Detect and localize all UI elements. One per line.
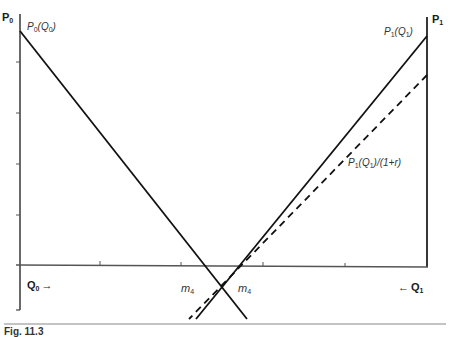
p1-label-main: P xyxy=(384,26,391,37)
right-axis-label-sub: 1 xyxy=(439,19,443,26)
right-axis-label: P1 xyxy=(432,14,443,26)
m4-left-main: m xyxy=(181,282,190,294)
q1-label-main: Q xyxy=(411,281,420,293)
q1-axis-label: ←Q1 xyxy=(398,282,423,294)
p1d-label-close: )/(1+r) xyxy=(374,157,402,168)
q0-label-sub: 0 xyxy=(36,285,40,292)
m4-right-main: m xyxy=(238,282,247,294)
p1-discounted-curve xyxy=(189,75,427,319)
p0-curve xyxy=(20,31,247,319)
p1d-label-arg: (Q xyxy=(359,157,370,168)
p1-curve-label: P1(Q1) xyxy=(384,27,413,38)
horizontal-axis xyxy=(16,265,428,267)
m4-left-sub: 4 xyxy=(190,288,194,295)
p0-label-main: P xyxy=(27,21,34,32)
p0-label-close: ) xyxy=(53,21,56,32)
p1-discounted-curve-label: P1(Q1)/(1+r) xyxy=(348,158,401,169)
left-arrow-icon: ← xyxy=(398,281,409,293)
m4-marker-right: m4 xyxy=(238,283,251,295)
p1d-label-main: P xyxy=(348,157,355,168)
m4-marker-left: m4 xyxy=(181,283,194,295)
left-axis-label: P0 xyxy=(2,12,13,24)
p1-label-arg: (Q xyxy=(395,26,406,37)
left-axis-label-sub: 0 xyxy=(9,17,13,24)
m4-right-sub: 4 xyxy=(247,288,251,295)
q0-label-main: Q xyxy=(27,279,36,291)
p0-label-arg: (Q xyxy=(38,21,49,32)
figure-caption: Fig. 11.3 xyxy=(4,326,43,337)
q1-label-sub: 1 xyxy=(420,287,424,294)
p0-curve-label: P0(Q0) xyxy=(27,22,56,33)
q0-axis-label: Q0→ xyxy=(27,280,52,292)
right-arrow-icon: → xyxy=(41,279,52,291)
p1-label-close: ) xyxy=(410,26,413,37)
